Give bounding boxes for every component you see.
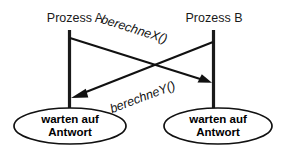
- arrowhead-y: [71, 89, 88, 98]
- message-label-y: berechneY(): [108, 78, 177, 116]
- arrowhead-x: [198, 74, 213, 83]
- state-label-a-line2: Antwort: [48, 126, 92, 138]
- participant-label-a: Prozess A: [47, 11, 104, 25]
- sequence-diagram: Prozess A Prozess B berechneX() berechne…: [0, 0, 281, 152]
- message-label-x: berechneX(): [99, 12, 169, 46]
- state-label-b-line1: warten auf: [188, 113, 247, 125]
- state-label-a-line1: warten auf: [40, 113, 99, 125]
- state-node-a: warten auf Antwort: [14, 108, 126, 144]
- diagram-canvas: Prozess A Prozess B berechneX() berechne…: [0, 0, 281, 152]
- state-label-b-line2: Antwort: [196, 126, 240, 138]
- participant-label-b: Prozess B: [186, 11, 243, 25]
- state-node-b: warten auf Antwort: [164, 108, 272, 144]
- message-arrow-x: [70, 38, 212, 83]
